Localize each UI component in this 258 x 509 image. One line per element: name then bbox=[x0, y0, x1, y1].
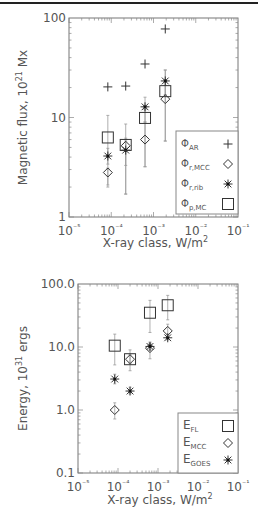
x-tick-exponent: ⁻² bbox=[202, 479, 209, 488]
x-tick-label: 10⁻⁵ bbox=[58, 223, 81, 238]
legend-label-main: E bbox=[183, 435, 191, 449]
plus-marker-icon bbox=[121, 82, 130, 91]
y-axis-label-main: Energy, 10 bbox=[16, 366, 30, 431]
x-tick-label: 10⁻³ bbox=[147, 479, 170, 494]
y-tick-label: 100.0 bbox=[41, 277, 75, 291]
asterisk-center bbox=[164, 79, 167, 82]
legend-label-sub: AR bbox=[189, 144, 199, 152]
x-axis-label: X-ray class, W/m2 bbox=[107, 492, 212, 507]
legend-label-main: Φ bbox=[181, 138, 189, 149]
y-tick-label: 10 bbox=[51, 111, 66, 125]
x-tick-exponent: ⁻² bbox=[200, 223, 207, 232]
x-tick-exponent: ⁻³ bbox=[157, 223, 164, 232]
legend: EFLEMCCEGOES bbox=[178, 413, 238, 473]
y-tick-label: 1.0 bbox=[56, 403, 75, 417]
x-tick-base: 10 bbox=[187, 480, 202, 494]
asterisk-center bbox=[166, 336, 169, 339]
x-tick-exponent: ⁻⁵ bbox=[73, 223, 80, 232]
x-tick-base: 10 bbox=[227, 480, 242, 494]
x-tick-label: 10⁻⁴ bbox=[107, 479, 130, 494]
magnetic-flux-chart: 10⁻⁵10⁻⁴10⁻³10⁻²10⁻¹110100X-ray class, W… bbox=[15, 11, 249, 250]
legend-label-main: E bbox=[183, 452, 191, 466]
x-axis-label-main: X-ray class, W/m bbox=[107, 493, 207, 507]
x-tick-base: 10 bbox=[67, 480, 82, 494]
legend: ΦARΦr,MCCΦr,ribΦp,MC bbox=[176, 131, 238, 214]
y-axis-label: Magnetic flux, 1021 Mx bbox=[15, 50, 30, 185]
y-tick-label: 1 bbox=[58, 210, 66, 224]
y-axis-label-tail: ergs bbox=[16, 326, 30, 356]
x-tick-exponent: ⁻⁴ bbox=[115, 223, 122, 232]
y-tick-label: 100 bbox=[43, 11, 66, 25]
legend-label-sub: FL bbox=[191, 426, 199, 434]
y-axis-label: Energy, 1031 ergs bbox=[15, 326, 30, 431]
x-tick-exponent: ⁻⁴ bbox=[122, 479, 129, 488]
y-tick-label: 0.1 bbox=[56, 466, 75, 480]
plus-marker-icon bbox=[161, 24, 170, 33]
legend-label-main: Φ bbox=[181, 198, 189, 209]
figure: 10⁻⁵10⁻⁴10⁻³10⁻²10⁻¹110100X-ray class, W… bbox=[0, 0, 258, 509]
x-axis-label: X-ray class, W/m2 bbox=[103, 235, 208, 250]
x-axis-label-sup: 2 bbox=[208, 492, 213, 501]
asterisk-center bbox=[148, 345, 151, 348]
x-tick-base: 10 bbox=[107, 480, 122, 494]
x-tick-exponent: ⁻⁵ bbox=[82, 479, 89, 488]
legend-label-main: E bbox=[183, 418, 191, 432]
legend-label-sub: r,rib bbox=[189, 184, 204, 192]
x-axis-label-sup: 2 bbox=[203, 235, 208, 244]
legend-label-sub: MCC bbox=[191, 443, 207, 451]
plus-marker-icon bbox=[103, 82, 112, 91]
y-axis-label-sup: 21 bbox=[15, 71, 24, 81]
x-tick-label: 10⁻¹ bbox=[227, 479, 250, 494]
x-tick-label: 10⁻² bbox=[187, 479, 210, 494]
legend-label-sub: p,MC bbox=[189, 204, 207, 212]
asterisk-center bbox=[113, 377, 116, 380]
energy-chart: 10⁻⁵10⁻⁴10⁻³10⁻²10⁻¹0.11.010.0100.0X-ray… bbox=[15, 277, 249, 507]
asterisk-center bbox=[143, 105, 146, 108]
x-tick-label: 10⁻¹ bbox=[227, 223, 250, 238]
legend-label-sub: GOES bbox=[191, 460, 211, 468]
asterisk-center bbox=[128, 389, 131, 392]
x-tick-exponent: ⁻¹ bbox=[242, 223, 249, 232]
y-axis-label-tail: Mx bbox=[16, 50, 30, 71]
legend-label-main: Φ bbox=[181, 178, 189, 189]
asterisk-center bbox=[226, 182, 229, 185]
x-tick-exponent: ⁻¹ bbox=[242, 479, 249, 488]
legend-label-main: Φ bbox=[181, 158, 189, 169]
plus-marker-icon bbox=[141, 59, 150, 68]
y-axis-label-sup: 31 bbox=[15, 356, 24, 366]
x-tick-base: 10 bbox=[58, 224, 73, 238]
x-axis-label-main: X-ray class, W/m bbox=[103, 236, 203, 250]
legend-label-sub: r,MCC bbox=[189, 164, 210, 172]
x-tick-exponent: ⁻³ bbox=[162, 479, 169, 488]
x-tick-label: 10⁻⁵ bbox=[67, 479, 90, 494]
y-axis-label-main: Magnetic flux, 10 bbox=[16, 81, 30, 185]
x-tick-base: 10 bbox=[147, 480, 162, 494]
y-tick-label: 10.0 bbox=[48, 340, 75, 354]
asterisk-center bbox=[226, 458, 229, 461]
asterisk-center bbox=[106, 154, 109, 157]
x-tick-base: 10 bbox=[227, 224, 242, 238]
